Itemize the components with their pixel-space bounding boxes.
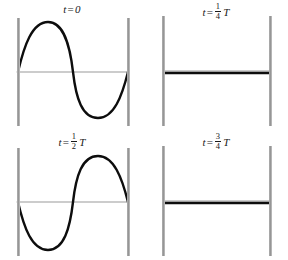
plot-area-t-equals-quarter-T: [144, 0, 288, 130]
wall-post-right: [269, 16, 272, 126]
standing-wave-figure: t=0 t=14T t=12T: [0, 0, 288, 260]
string-waveform: [18, 22, 128, 118]
wall-post-left: [17, 18, 20, 126]
panel-t-equals-three-quarter-T: t=34T: [144, 130, 288, 260]
wall-post-left: [162, 146, 165, 256]
panel-t-equals-quarter-T: t=14T: [144, 0, 288, 130]
plot-area-t-equals-half-T: [0, 130, 144, 260]
wall-post-right: [127, 18, 130, 126]
wall-post-left: [162, 16, 165, 126]
plot-area-t-equals-three-quarter-T: [144, 130, 288, 260]
wall-post-right: [127, 148, 130, 256]
wall-post-left: [17, 148, 20, 256]
panel-t-equals-0: t=0: [0, 0, 144, 130]
string-waveform: [18, 156, 128, 250]
plot-area-t-equals-0: [0, 0, 144, 130]
wall-post-right: [269, 146, 272, 256]
panel-t-equals-half-T: t=12T: [0, 130, 144, 260]
